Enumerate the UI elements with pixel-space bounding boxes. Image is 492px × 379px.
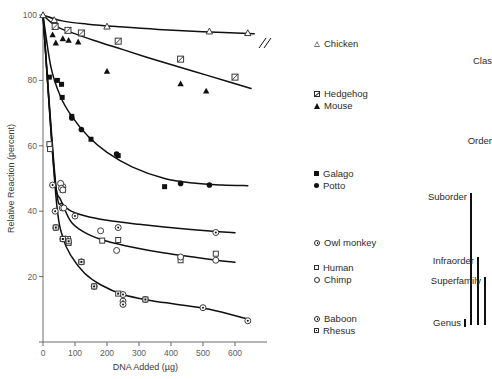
data-point	[60, 187, 66, 193]
data-point	[178, 254, 184, 260]
svg-text:400: 400	[164, 348, 178, 358]
legend-item-rhesus: Rhesus	[314, 325, 355, 336]
data-point	[213, 257, 219, 263]
legend-label: Galago	[323, 168, 354, 179]
data-point	[60, 236, 65, 241]
legend-label: Chicken	[324, 38, 358, 49]
legend-item-owl-monkey: Owl monkey	[314, 237, 376, 248]
dna-hybridization-chart: 204060801000100200300400500600DNA Added …	[0, 0, 492, 379]
svg-text:200: 200	[100, 348, 114, 358]
taxonomy-bar-genus	[464, 319, 466, 327]
legend-label: Chimp	[324, 274, 351, 285]
data-point	[100, 238, 105, 243]
data-point	[49, 31, 55, 37]
filled-circle-marker-icon	[314, 183, 319, 188]
data-point	[72, 213, 78, 219]
data-point	[47, 142, 52, 147]
svg-text:0: 0	[41, 348, 46, 358]
points-mouse	[49, 31, 209, 93]
data-point	[47, 75, 52, 80]
curve-hedgehog	[43, 15, 251, 89]
svg-text:600: 600	[228, 348, 242, 358]
svg-text:DNA Added (µg): DNA Added (µg)	[113, 362, 178, 372]
data-point	[162, 184, 167, 189]
data-point	[178, 181, 184, 187]
chart-plot-area: 204060801000100200300400500600DNA Added …	[0, 0, 492, 379]
data-point	[207, 182, 213, 188]
data-point	[213, 251, 218, 256]
data-point	[104, 68, 110, 74]
data-point	[89, 137, 94, 142]
open-circle-marker-icon	[314, 277, 320, 283]
legend-label: Hedgehog	[324, 88, 368, 99]
data-point	[60, 35, 66, 41]
svg-text:40: 40	[28, 206, 38, 216]
legend-item-mouse: Mouse	[314, 100, 353, 111]
legend-label: Human	[323, 262, 354, 273]
data-point	[69, 115, 75, 121]
svg-text:100: 100	[68, 348, 82, 358]
data-point	[48, 147, 53, 152]
points-galago	[47, 75, 167, 190]
curve-human	[43, 15, 235, 262]
taxonomy-label-superfamily: Superfamily	[431, 275, 481, 286]
data-point	[200, 305, 206, 311]
data-point	[65, 27, 71, 33]
svg-text:Relative Reaction (percent): Relative Reaction (percent)	[6, 124, 16, 233]
data-point	[75, 39, 81, 45]
data-point	[92, 284, 97, 289]
data-point	[114, 151, 120, 157]
data-point	[177, 80, 183, 86]
data-point	[120, 301, 126, 307]
legend-item-chicken: Chicken	[314, 38, 358, 49]
data-point	[53, 225, 58, 230]
data-point	[53, 40, 59, 46]
data-point	[60, 95, 65, 100]
data-point	[178, 56, 184, 62]
data-point	[79, 259, 84, 264]
curve-chicken	[43, 15, 254, 34]
svg-text:20: 20	[28, 272, 38, 282]
points-human	[47, 142, 218, 263]
data-point	[116, 291, 121, 296]
legend-item-human: Human	[314, 262, 354, 273]
data-point	[206, 28, 212, 34]
taxonomy-label-infraorder: Infraorder	[433, 255, 474, 266]
data-point	[50, 182, 56, 188]
legend-label: Rhesus	[323, 325, 355, 336]
legend-label: Potto	[323, 180, 345, 191]
data-point	[59, 82, 64, 87]
filled-square-marker-icon	[314, 171, 319, 176]
curve-baboon	[43, 15, 248, 319]
svg-text:500: 500	[196, 348, 210, 358]
filled-triangle-marker-icon	[314, 103, 320, 109]
svg-text:60: 60	[28, 141, 38, 151]
taxonomy-bar-superfamily	[484, 277, 486, 325]
points-owl-monkey	[50, 182, 219, 235]
legend-label: Baboon	[324, 313, 357, 324]
data-point	[78, 30, 84, 36]
svg-text:80: 80	[28, 75, 38, 85]
taxonomy-bar-infraorder	[477, 257, 479, 325]
axis-break-mark	[259, 37, 271, 48]
data-point	[61, 205, 67, 211]
data-point	[232, 74, 238, 80]
data-point	[79, 127, 85, 133]
curve-owl-monkey	[43, 15, 235, 233]
legend-item-galago: Galago	[314, 168, 354, 179]
data-point	[114, 247, 120, 253]
data-point	[213, 229, 219, 235]
data-point	[66, 239, 71, 244]
data-point	[143, 297, 148, 302]
data-point	[52, 208, 58, 214]
axes	[43, 15, 267, 342]
x-axis-ticks: 0100200300400500600	[41, 342, 243, 358]
open-triangle-marker-icon	[314, 41, 320, 47]
curve-galago	[43, 15, 248, 186]
svg-text:300: 300	[132, 348, 146, 358]
points-chimp	[58, 180, 219, 263]
legend-item-hedgehog: Hedgehog	[314, 88, 368, 99]
taxonomy-label-clas: Clas	[473, 55, 492, 66]
points-baboon	[60, 236, 251, 324]
legend-item-baboon: Baboon	[314, 313, 357, 324]
